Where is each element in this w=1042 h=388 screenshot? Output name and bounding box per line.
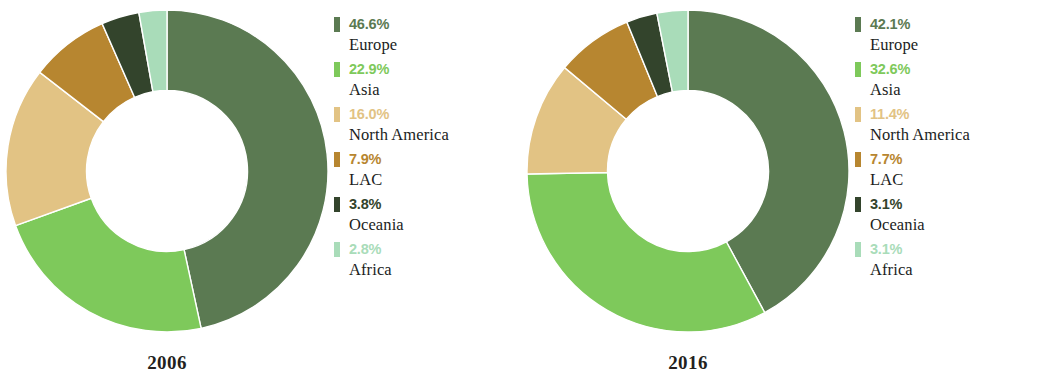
legend-row: 3.1% [855,239,1041,259]
legend-item[interactable]: 3.8% Oceania [334,194,520,236]
legend-label: North America [334,124,520,146]
legend-row: 22.9% [334,59,520,79]
legend-swatch-icon [855,242,861,257]
legend-item[interactable]: 22.9% Asia [334,59,520,101]
legend-label: Europe [334,34,520,56]
legend-value: 32.6% [870,61,910,77]
legend-value: 46.6% [349,16,389,32]
legend-row: 42.1% [855,14,1041,34]
legend-swatch-icon [334,107,340,122]
legend-label: North America [855,124,1041,146]
donut-chart-2006 [6,10,328,332]
legend-label: Oceania [855,214,1041,236]
legend-value: 11.4% [870,106,909,122]
legend-item[interactable]: 3.1% Oceania [855,194,1041,236]
legend-label: Africa [855,259,1041,281]
donut-chart-2016 [527,10,849,332]
donut-chart-figure: 2006 46.6% Europe 22.9% Asia 16.0% [0,0,1042,388]
legend-row: 46.6% [334,14,520,34]
legend-item[interactable]: 16.0% North America [334,104,520,146]
donut-svg-2016 [527,10,849,332]
legend-value: 7.7% [870,151,902,167]
legend-label: Africa [334,259,520,281]
legend-value: 42.1% [870,16,910,32]
legend-value: 22.9% [349,61,389,77]
donut-slice-asia[interactable] [527,173,765,332]
legend-label: LAC [334,169,520,191]
legend-label: Oceania [334,214,520,236]
legend-value: 3.1% [870,241,902,257]
legend-swatch-icon [855,107,861,122]
legend-item[interactable]: 32.6% Asia [855,59,1041,101]
legend-row: 7.7% [855,149,1041,169]
legend-swatch-icon [334,62,340,77]
donut-svg-2006 [6,10,328,332]
legend-item[interactable]: 2.8% Africa [334,239,520,281]
legend-swatch-icon [855,197,861,212]
legend-2006: 46.6% Europe 22.9% Asia 16.0% North Amer… [334,14,520,284]
legend-label: Europe [855,34,1041,56]
legend-swatch-icon [855,62,861,77]
legend-value: 3.1% [870,196,902,212]
legend-swatch-icon [334,17,340,32]
legend-swatch-icon [334,152,340,167]
legend-row: 16.0% [334,104,520,124]
legend-value: 2.8% [349,241,381,257]
legend-row: 3.8% [334,194,520,214]
legend-row: 7.9% [334,149,520,169]
panel-2016: 2016 42.1% Europe 32.6% Asia 11.4% [521,0,1042,388]
year-label-2006: 2006 [0,352,334,374]
legend-2016: 42.1% Europe 32.6% Asia 11.4% North Amer… [855,14,1041,284]
legend-swatch-icon [855,17,861,32]
legend-label: LAC [855,169,1041,191]
year-label-2016: 2016 [521,352,855,374]
legend-label: Asia [855,79,1041,101]
legend-item[interactable]: 11.4% North America [855,104,1041,146]
donut-slice-asia[interactable] [16,198,202,332]
legend-item[interactable]: 42.1% Europe [855,14,1041,56]
legend-swatch-icon [334,197,340,212]
legend-item[interactable]: 7.9% LAC [334,149,520,191]
legend-swatch-icon [855,152,861,167]
legend-row: 11.4% [855,104,1041,124]
legend-row: 2.8% [334,239,520,259]
legend-row: 32.6% [855,59,1041,79]
legend-item[interactable]: 3.1% Africa [855,239,1041,281]
legend-row: 3.1% [855,194,1041,214]
legend-label: Asia [334,79,520,101]
panel-2006: 2006 46.6% Europe 22.9% Asia 16.0% [0,0,521,388]
legend-item[interactable]: 7.7% LAC [855,149,1041,191]
legend-value: 3.8% [349,196,381,212]
legend-value: 7.9% [349,151,381,167]
legend-value: 16.0% [349,106,389,122]
legend-item[interactable]: 46.6% Europe [334,14,520,56]
legend-swatch-icon [334,242,340,257]
